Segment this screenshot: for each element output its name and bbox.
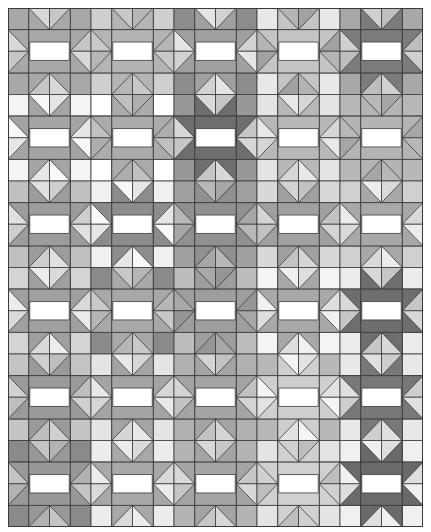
corner-square xyxy=(70,419,91,441)
corner-square xyxy=(402,268,423,290)
corner-square xyxy=(153,332,174,354)
corner-square xyxy=(174,441,195,463)
corner-square xyxy=(257,8,278,30)
corner-square xyxy=(319,332,340,354)
corner-square xyxy=(319,159,340,181)
white-bar xyxy=(30,215,70,233)
corner-square xyxy=(402,246,423,268)
white-bar xyxy=(196,388,236,406)
corner-square xyxy=(8,246,29,268)
corner-square xyxy=(70,332,91,354)
white-bar xyxy=(30,388,70,406)
white-bar xyxy=(279,129,319,147)
corner-square xyxy=(319,246,340,268)
corner-square xyxy=(402,159,423,181)
white-bar xyxy=(279,475,319,493)
corner-square xyxy=(174,246,195,268)
corner-square xyxy=(319,73,340,95)
corner-square xyxy=(257,95,278,117)
corner-square xyxy=(91,73,112,95)
corner-square xyxy=(91,332,112,354)
white-bar xyxy=(362,475,402,493)
white-bar xyxy=(30,302,70,320)
corner-square xyxy=(8,441,29,463)
corner-square xyxy=(257,246,278,268)
corner-square xyxy=(402,505,423,527)
corner-square xyxy=(91,419,112,441)
corner-square xyxy=(236,73,257,95)
corner-square xyxy=(340,181,361,203)
corner-square xyxy=(70,181,91,203)
white-bar xyxy=(279,215,319,233)
corner-square xyxy=(8,159,29,181)
corner-square xyxy=(402,95,423,117)
white-bar xyxy=(113,302,153,320)
corner-square xyxy=(91,246,112,268)
corner-square xyxy=(174,419,195,441)
corner-square xyxy=(257,354,278,376)
corner-square xyxy=(153,8,174,30)
corner-square xyxy=(257,73,278,95)
corner-square xyxy=(8,419,29,441)
corner-square xyxy=(402,73,423,95)
corner-square xyxy=(153,246,174,268)
corner-square xyxy=(340,441,361,463)
corner-square xyxy=(70,505,91,527)
corner-square xyxy=(402,8,423,30)
corner-square xyxy=(8,268,29,290)
corner-square xyxy=(91,354,112,376)
corner-square xyxy=(319,505,340,527)
corner-square xyxy=(236,441,257,463)
corner-square xyxy=(319,95,340,117)
corner-square xyxy=(340,246,361,268)
corner-square xyxy=(70,73,91,95)
white-bar xyxy=(362,215,402,233)
corner-square xyxy=(153,505,174,527)
corner-square xyxy=(70,441,91,463)
white-bar xyxy=(113,215,153,233)
corner-square xyxy=(257,332,278,354)
corner-square xyxy=(402,441,423,463)
white-bar xyxy=(113,42,153,60)
white-bar xyxy=(362,129,402,147)
corner-square xyxy=(236,246,257,268)
corner-square xyxy=(340,354,361,376)
corner-square xyxy=(257,159,278,181)
corner-square xyxy=(153,181,174,203)
white-bar xyxy=(279,302,319,320)
corner-square xyxy=(402,181,423,203)
corner-square xyxy=(236,95,257,117)
corner-square xyxy=(402,354,423,376)
corner-square xyxy=(340,8,361,30)
corner-square xyxy=(70,246,91,268)
corner-square xyxy=(257,181,278,203)
corner-square xyxy=(236,159,257,181)
corner-square xyxy=(340,159,361,181)
corner-square xyxy=(174,332,195,354)
white-bar xyxy=(196,475,236,493)
corner-square xyxy=(153,73,174,95)
corner-square xyxy=(8,332,29,354)
white-bar xyxy=(30,42,70,60)
corner-square xyxy=(340,95,361,117)
corner-square xyxy=(70,95,91,117)
corner-square xyxy=(70,354,91,376)
corner-square xyxy=(340,332,361,354)
corner-square xyxy=(340,73,361,95)
white-bar xyxy=(279,42,319,60)
corner-square xyxy=(236,268,257,290)
white-bar xyxy=(362,388,402,406)
corner-square xyxy=(91,181,112,203)
corner-square xyxy=(8,354,29,376)
corner-square xyxy=(174,95,195,117)
white-bar xyxy=(113,129,153,147)
corner-square xyxy=(319,354,340,376)
corner-square xyxy=(8,95,29,117)
corner-square xyxy=(91,159,112,181)
corner-square xyxy=(70,8,91,30)
corner-square xyxy=(70,159,91,181)
corner-square xyxy=(174,505,195,527)
white-bar xyxy=(196,215,236,233)
corner-square xyxy=(257,419,278,441)
corner-square xyxy=(91,441,112,463)
